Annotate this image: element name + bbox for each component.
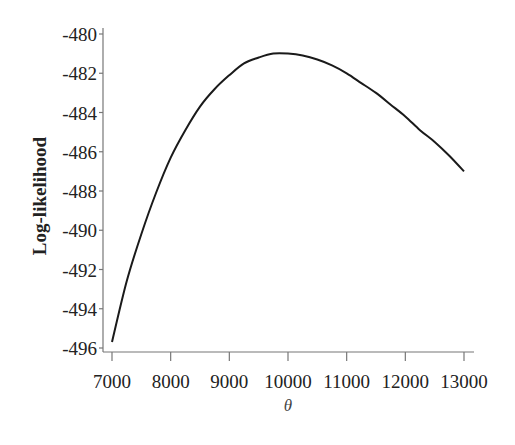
x-tick-label: 12000 (382, 371, 430, 392)
x-tick-label: 7000 (93, 371, 131, 392)
x-tick-label: 10000 (264, 371, 312, 392)
y-tick-label: -494 (62, 299, 97, 320)
y-tick-label: -484 (62, 103, 97, 124)
log-likelihood-chart: -480-482-484-486-488-490-492-494-496 700… (0, 0, 515, 445)
y-axis-title: Log-likelihood (29, 136, 50, 255)
y-tick-label: -488 (62, 181, 97, 202)
y-tick-label: -496 (62, 338, 97, 359)
y-tick-label: -482 (62, 63, 97, 84)
y-tick-label: -486 (62, 142, 97, 163)
y-tick-label: -490 (62, 220, 97, 241)
y-tick-label: -492 (62, 260, 97, 281)
y-axis: -480-482-484-486-488-490-492-494-496 (62, 24, 103, 359)
y-tick-label: -480 (62, 24, 97, 45)
x-tick-label: 13000 (440, 371, 488, 392)
x-tick-label: 8000 (152, 371, 190, 392)
x-tick-label: 9000 (210, 371, 248, 392)
x-axis-title: θ (284, 396, 292, 415)
x-tick-label: 11000 (323, 371, 370, 392)
log-likelihood-curve (112, 53, 464, 342)
x-axis: 70008000900010000110001200013000 (93, 352, 488, 392)
